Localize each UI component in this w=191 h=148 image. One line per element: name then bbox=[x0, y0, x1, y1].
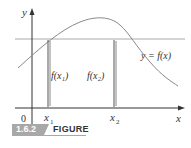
curve-label: y = f(x) bbox=[140, 50, 172, 62]
origin-label: 0 bbox=[21, 113, 26, 124]
x1-label: x bbox=[43, 111, 49, 123]
x-axis-arrow-icon bbox=[178, 106, 185, 111]
y-axis-label: y bbox=[21, 6, 27, 18]
f-x2-label: f(x₂) bbox=[87, 70, 105, 82]
x-axis-label: x bbox=[175, 112, 181, 124]
figure-label: FIGURE bbox=[44, 124, 93, 135]
f-x1-label: f(x₁) bbox=[51, 70, 69, 82]
x2-label: x bbox=[109, 111, 115, 123]
y-axis-arrow-icon bbox=[30, 8, 35, 15]
caption-underline bbox=[12, 135, 86, 136]
x2-subscript: 2 bbox=[116, 118, 120, 126]
figure-number: 1.6.2 bbox=[12, 124, 44, 135]
figure-caption: 1.6.2 FIGURE bbox=[12, 124, 93, 135]
